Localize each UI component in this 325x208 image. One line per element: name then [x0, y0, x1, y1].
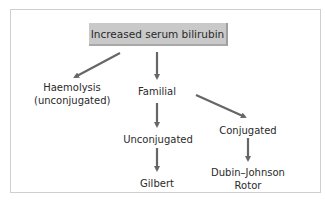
node-unconjugated-label: Unconjugated: [123, 134, 193, 145]
node-familial-label: Familial: [138, 86, 176, 97]
arrow-familial-to-conjugated: [196, 95, 245, 117]
root-node-label: Increased serum bilirubin: [91, 28, 225, 40]
node-haemolysis: Haemolysis (unconjugated): [34, 81, 110, 107]
node-haemolysis-line1: Haemolysis: [34, 81, 110, 94]
arrow-root-to-haemolysis: [75, 53, 120, 77]
node-dubin-line2: Rotor: [208, 179, 288, 192]
node-haemolysis-line2: (unconjugated): [34, 94, 110, 107]
node-gilbert-label: Gilbert: [140, 178, 174, 189]
node-dubin-line1: Dubin–Johnson: [208, 166, 288, 179]
node-conjugated-label: Conjugated: [219, 125, 276, 136]
root-node-box: Increased serum bilirubin: [89, 23, 228, 46]
node-familial: Familial: [132, 85, 182, 98]
node-unconjugated: Unconjugated: [118, 133, 198, 146]
node-gilbert: Gilbert: [130, 177, 184, 190]
node-dubin-johnson-rotor: Dubin–Johnson Rotor: [208, 166, 288, 192]
node-conjugated: Conjugated: [218, 124, 278, 137]
